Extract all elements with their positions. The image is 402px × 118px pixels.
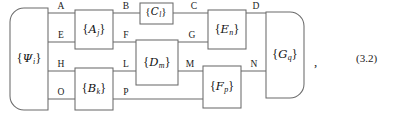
- edge-label-h: H: [58, 59, 65, 69]
- equation-number: (3.2): [356, 53, 377, 64]
- edge-label-e: E: [58, 30, 64, 40]
- edge-label-a: A: [58, 1, 65, 11]
- trailing-comma: ,: [314, 55, 317, 68]
- edge-label-p: P: [123, 87, 128, 97]
- edge-label-d: D: [253, 1, 260, 11]
- edge-label-m: M: [186, 59, 195, 69]
- state-box-psi-outline: [10, 8, 48, 110]
- edge-label-c: C: [191, 1, 197, 11]
- edge-label-o: O: [58, 87, 65, 97]
- tensor-network-diagram: A B C D E F G H L M N O P: [0, 0, 402, 118]
- operator-box-c-outline: [140, 3, 173, 24]
- edge-label-b: B: [123, 1, 129, 11]
- operator-box-b-outline: [75, 68, 113, 110]
- operator-box-a-outline: [75, 10, 113, 49]
- operator-box-d-outline: [136, 40, 178, 85]
- operator-box-f-outline: [203, 66, 241, 108]
- operator-box-e-outline: [208, 10, 246, 49]
- edge-label-f: F: [123, 30, 128, 40]
- edge-label-n: N: [251, 59, 258, 69]
- edge-label-g: G: [189, 30, 196, 40]
- operator-box-g-outline: [266, 12, 304, 98]
- edge-label-l: L: [123, 59, 129, 69]
- equation-figure: A B C D E F G H L M N O P {Ψi} {Aj} {Cl}…: [0, 0, 402, 118]
